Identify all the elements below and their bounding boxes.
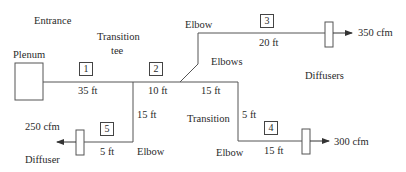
section-4-badge: 4	[264, 121, 278, 135]
section-2-badge: 2	[149, 62, 163, 76]
transition-tee-label-2: tee	[111, 46, 123, 57]
elbow-top-label: Elbow	[185, 20, 212, 31]
plenum-box	[15, 63, 43, 100]
elbows-label: Elbows	[211, 57, 243, 68]
entrance-label: Entrance	[34, 16, 71, 27]
branch-down-left-length: 15 ft	[137, 110, 157, 121]
diffuser-label: Diffuser	[25, 155, 60, 166]
main-after-tee-length: 15 ft	[201, 86, 221, 97]
section-5-badge: 5	[100, 122, 114, 136]
transition-label: Transition	[187, 114, 230, 125]
elbow-bottom-left-label: Elbow	[137, 147, 164, 158]
section-1-badge: 1	[79, 62, 93, 76]
elbow-bottom-right-label: Elbow	[216, 148, 243, 159]
diffuser-5	[76, 130, 84, 155]
section-3-length: 20 ft	[259, 38, 279, 49]
outlet-5-flow: 250 cfm	[25, 122, 60, 133]
branch-3-duct	[180, 33, 325, 82]
diffusers-label: Diffusers	[305, 71, 344, 82]
outlet-4-flow: 300 cfm	[334, 137, 369, 148]
outlet-3-flow: 350 cfm	[358, 28, 393, 39]
plenum-label: Plenum	[13, 50, 45, 61]
duct-system-diagram: Entrance Transition tee Plenum Elbow Elb…	[0, 0, 406, 172]
diffuser-4	[302, 129, 310, 154]
branch-down-right-length: 5 ft	[242, 110, 256, 121]
section-4-length: 15 ft	[264, 146, 284, 157]
transition-tee-label: Transition	[97, 32, 140, 43]
section-2-length: 10 ft	[148, 86, 168, 97]
section-5-length: 5 ft	[100, 147, 114, 158]
diffuser-3	[325, 22, 333, 47]
section-3-badge: 3	[260, 14, 274, 28]
section-1-length: 35 ft	[78, 86, 98, 97]
